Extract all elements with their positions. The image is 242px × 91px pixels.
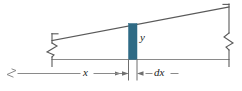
label-x: x (83, 67, 88, 78)
shaded-strip (129, 24, 138, 60)
x-dimension (7, 69, 129, 77)
zigzag-break-icon-dimension (7, 69, 16, 77)
diagram-canvas (0, 0, 242, 91)
zigzag-break-icon (47, 43, 57, 57)
zigzag-break-icon-right (224, 33, 233, 50)
arrowhead-icon-dx-left (137, 71, 144, 75)
arrowhead-icon-x-right (122, 71, 129, 75)
right-break-edge (223, 4, 233, 67)
left-break-edge (47, 34, 58, 67)
label-dx: dx (154, 67, 164, 78)
label-y: y (140, 32, 145, 43)
figure-container: y x dx (0, 0, 242, 91)
